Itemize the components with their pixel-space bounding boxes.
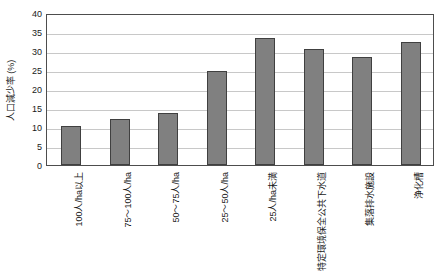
x-tick-slot: 75～100人/ha — [95, 168, 144, 271]
bar[interactable] — [207, 71, 227, 165]
x-tick-slot: 集落排水施設 — [337, 168, 386, 271]
y-tick-label: 0 — [37, 162, 42, 171]
x-tick-slot: 25～50人/ha — [192, 168, 241, 271]
x-tick-label: 浄化槽 — [414, 172, 424, 199]
bar-slot — [47, 15, 96, 165]
y-axis-tick-labels: 0510152025303540 — [22, 14, 44, 166]
bar-slot — [338, 15, 387, 165]
y-tick-label: 15 — [32, 105, 42, 114]
bar[interactable] — [61, 126, 81, 165]
x-tick-label: 25人/ha未満 — [268, 172, 278, 222]
bars-layer — [47, 15, 433, 165]
y-axis-title: 人口減少率 (%) — [0, 0, 22, 180]
x-tick-slot: 50～75人/ha — [143, 168, 192, 271]
plot-area — [46, 14, 434, 166]
y-tick-label: 25 — [32, 67, 42, 76]
x-axis-tick-labels: 100人/ha以上75～100人/ha50～75人/ha25～50人/ha25人… — [46, 168, 434, 271]
y-tick-label: 40 — [32, 10, 42, 19]
x-tick-label: 50～75人/ha — [171, 172, 181, 223]
x-tick-label: 集落排水施設 — [365, 172, 375, 226]
bar[interactable] — [401, 42, 421, 166]
x-tick-slot: 浄化槽 — [386, 168, 435, 271]
x-tick-label: 75～100人/ha — [123, 172, 133, 228]
bar-slot — [96, 15, 145, 165]
bar-slot — [290, 15, 339, 165]
bar[interactable] — [352, 57, 372, 165]
bar-chart: 人口減少率 (%) 0510152025303540 100人/ha以上75～1… — [0, 0, 442, 271]
y-tick-label: 20 — [32, 86, 42, 95]
bar-slot — [193, 15, 242, 165]
x-tick-slot: 100人/ha以上 — [46, 168, 95, 271]
x-tick-label: 特定環境保全公共下水道 — [317, 172, 327, 271]
x-tick-label: 25～50人/ha — [220, 172, 230, 223]
bar-slot — [241, 15, 290, 165]
x-tick-slot: 25人/ha未満 — [240, 168, 289, 271]
y-tick-label: 10 — [32, 124, 42, 133]
bar-slot — [144, 15, 193, 165]
y-tick-label: 5 — [37, 143, 42, 152]
bar[interactable] — [110, 119, 130, 165]
y-tick-label: 35 — [32, 29, 42, 38]
bar[interactable] — [304, 49, 324, 165]
x-tick-slot: 特定環境保全公共下水道 — [289, 168, 338, 271]
bar[interactable] — [158, 113, 178, 165]
bar[interactable] — [255, 38, 275, 165]
x-tick-label: 100人/ha以上 — [74, 172, 84, 227]
y-axis-title-label: 人口減少率 (%) — [5, 59, 18, 121]
y-tick-label: 30 — [32, 48, 42, 57]
bar-slot — [387, 15, 435, 165]
